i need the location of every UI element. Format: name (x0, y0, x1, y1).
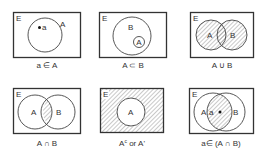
set-b-label: B (56, 108, 61, 117)
universal-set-label: E (192, 90, 197, 99)
venn-diagram-sheet: E a A a ∈ A E B A A ⊂ B E A B A ∪ B E A … (0, 0, 261, 153)
universal-set-label: E (16, 14, 21, 23)
set-a-label: A (207, 31, 213, 40)
caption: a ∈ A (37, 61, 58, 70)
universal-set-label: E (16, 90, 21, 99)
panel-subset: E B A A ⊂ B (100, 13, 167, 71)
universal-set-label: E (102, 14, 107, 23)
panel-element-of: E a A a ∈ A (14, 13, 81, 71)
set-a-label: A (136, 38, 142, 47)
universal-set-label: E (103, 90, 108, 99)
caption: A ∩ B (37, 139, 57, 148)
panel-element-of-intersection: E A a B a∈ (A ∩ B) (190, 89, 254, 149)
set-a-label: A (128, 108, 134, 117)
universal-set-label: E (193, 14, 198, 23)
caption: A ∪ B (212, 61, 233, 70)
element-label: a (209, 108, 214, 117)
universal-set-frame (100, 13, 167, 58)
set-a-label: A (31, 108, 37, 117)
element-dot (219, 111, 222, 114)
panel-complement: E A Ac or A' (101, 89, 164, 149)
universal-set-frame (14, 13, 81, 58)
set-a-label: A (201, 108, 207, 117)
caption: Ac or A' (119, 138, 145, 148)
panel-union: E A B A ∪ B (191, 13, 254, 71)
set-a-label: A (60, 20, 66, 29)
set-b-label: B (128, 23, 133, 32)
panel-intersection: E A B A ∩ B (14, 89, 81, 149)
set-b-label: B (233, 108, 238, 117)
caption: a∈ (A ∩ B) (201, 139, 241, 148)
caption: A ⊂ B (122, 61, 144, 70)
element-label: a (42, 23, 47, 32)
set-b-label: B (230, 31, 235, 40)
element-dot (38, 26, 41, 29)
